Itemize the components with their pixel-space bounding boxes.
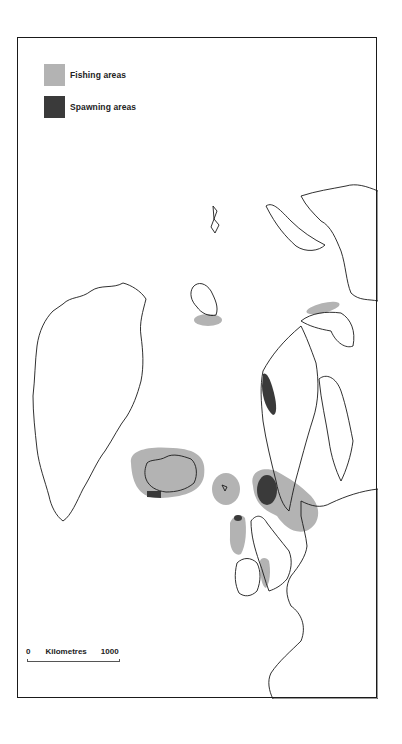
kola-coastline xyxy=(301,312,354,346)
scale-end: 1000 xyxy=(101,647,119,656)
scale-start: 0 xyxy=(26,647,30,656)
greenland-coastline xyxy=(33,283,146,521)
scale-bar: 0 Kilometres 1000 xyxy=(26,647,146,656)
legend-item-spawning: Spawning areas xyxy=(44,96,136,118)
novaya-zemlya-coastline xyxy=(266,205,325,251)
fishing-area-barents xyxy=(305,299,340,317)
map-frame: Fishing areas Spawning areas 0 Kilometre… xyxy=(17,37,377,698)
legend-label-spawning: Spawning areas xyxy=(70,102,136,112)
fishing-areas xyxy=(131,299,341,588)
russia-north-coastline xyxy=(301,185,378,301)
spawning-area-iceland xyxy=(147,491,161,498)
map-canvas xyxy=(18,38,378,699)
legend: Fishing areas Spawning areas xyxy=(44,64,136,128)
svalbard-coastline xyxy=(191,284,217,316)
ireland-coastline xyxy=(235,559,260,596)
fishing-area-svalbard xyxy=(194,314,222,326)
spawning-area-north-sea xyxy=(257,475,277,505)
great-britain-coastline xyxy=(251,516,291,591)
fishing-area-west-scotland xyxy=(230,515,246,554)
franz-josef-coastline xyxy=(211,206,219,233)
spawning-area-hebrides xyxy=(234,515,242,521)
legend-label-fishing: Fishing areas xyxy=(70,70,126,80)
finland-coastline xyxy=(319,376,353,481)
fishing-area-irish-sea xyxy=(260,558,270,588)
fishing-area-iceland xyxy=(131,447,205,498)
spawning-swatch xyxy=(44,96,65,118)
coastlines xyxy=(33,185,378,699)
scale-line xyxy=(27,659,120,662)
spawning-area-norway xyxy=(262,373,276,415)
legend-item-fishing: Fishing areas xyxy=(44,64,136,86)
fishing-swatch xyxy=(44,64,65,86)
scale-unit: Kilometres xyxy=(45,647,86,656)
